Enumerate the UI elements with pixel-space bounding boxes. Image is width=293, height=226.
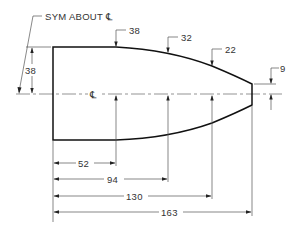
dim-left-38: 38 (25, 47, 51, 94)
leader-label-38: 38 (129, 25, 140, 36)
dim-tip-9: 9 (254, 63, 286, 110)
dim-label-9: 9 (280, 63, 286, 74)
sym-about-label: SYM ABOUT ℄ (45, 11, 113, 22)
leader-label-22: 22 (225, 44, 236, 55)
leader-38: 38 (114, 25, 140, 47)
leader-label-32: 32 (181, 32, 192, 43)
dim-label-163: 163 (161, 207, 178, 218)
dim-label-130: 130 (126, 191, 143, 202)
technical-drawing: SYM ABOUT ℄ 38 ℄ 38 32 22 9 (0, 0, 293, 226)
dim-52: 52 (54, 157, 116, 169)
dim-94: 94 (54, 173, 168, 185)
leader-22: 22 (210, 44, 236, 66)
profile-outline (53, 47, 252, 140)
dim-label-94: 94 (107, 174, 118, 185)
centerline-symbol: ℄ (89, 89, 97, 100)
dim-163: 163 (54, 206, 252, 218)
dim-label-52: 52 (78, 158, 89, 169)
dim-130: 130 (54, 190, 212, 202)
leader-32: 32 (166, 32, 192, 53)
dim-label-38-left: 38 (25, 65, 36, 76)
